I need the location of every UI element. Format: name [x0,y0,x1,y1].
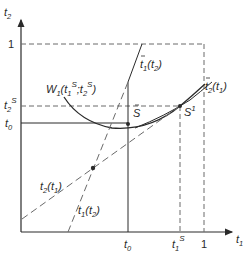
y-tick-t2s: t2S [4,96,17,114]
t1-t2-label: t1(t2) [78,204,100,219]
point-s1 [178,104,182,108]
x-axis-label: t1 [236,233,243,248]
bar-t1-t2-label: t1(t2) [140,56,162,73]
w1-label: W1(t1S;t2S) [46,80,96,98]
y-axis-label: t2 [4,6,12,21]
bar-t2-t1-label: t2(t1) [205,78,227,95]
x-tick-one: 1 [201,238,207,250]
point-s1-label: S1 [184,104,196,118]
svg-text:t2(t1): t2(t1) [205,80,227,95]
nash-point [91,166,95,170]
svg-text:t1(t2): t1(t2) [140,58,162,73]
point-s-label: S [133,105,141,119]
x-tick-t1s: t1S [172,234,185,253]
x-tick-t0: t0 [124,238,132,253]
point-s [126,122,130,126]
svg-text:S: S [133,107,141,119]
y-tick-one: 1 [8,38,14,50]
y-tick-t0: t0 [5,117,13,132]
diagram-canvas: t2 t1 1 t2S t0 t0 t1S 1 W1(t1S;t2S) t1(t… [0,0,248,256]
